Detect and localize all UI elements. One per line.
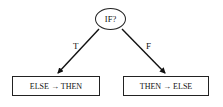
decision-label: IF? [105, 14, 116, 24]
outcome-label-true: ELSE → THEN [30, 82, 82, 91]
outcome-box-false: THEN → ELSE [123, 76, 209, 96]
outcome-label-false: THEN → ELSE [140, 82, 192, 91]
edge-false [122, 29, 165, 73]
edge-label-false: F [146, 42, 151, 51]
edge-label-true: T [73, 42, 79, 51]
edge-true [58, 29, 99, 73]
decision-node: IF? [95, 8, 126, 30]
outcome-box-true: ELSE → THEN [12, 76, 100, 96]
